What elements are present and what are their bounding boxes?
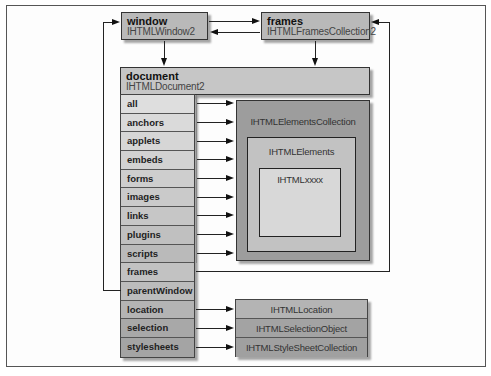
arrow-line xyxy=(197,178,227,179)
frames-to-document-line xyxy=(315,41,316,59)
arrow-down-icon xyxy=(161,58,167,66)
property-location: location xyxy=(121,301,194,320)
arrow-right-icon xyxy=(226,194,234,200)
arrow-right-icon xyxy=(226,325,234,331)
frames-box: frames IHTMLFramesCollection2 xyxy=(261,12,370,40)
frames-to-window-line xyxy=(218,32,260,33)
document-properties-list: all anchors applets embeds forms images … xyxy=(120,94,195,358)
arrow-right-icon xyxy=(226,175,234,181)
arrow-right-icon xyxy=(226,306,234,312)
frames-return-line-top xyxy=(378,22,390,23)
window-interface: IHTMLWindow2 xyxy=(127,27,195,37)
elements-collection-label: IHTMLElementsCollection xyxy=(237,116,369,127)
property-anchors: anchors xyxy=(121,114,194,133)
arrow-line xyxy=(197,215,227,216)
property-images: images xyxy=(121,188,194,207)
property-all: all xyxy=(121,95,194,114)
arrow-right-icon xyxy=(252,18,260,24)
property-applets: applets xyxy=(121,132,194,151)
property-links: links xyxy=(121,207,194,226)
window-to-document-line xyxy=(164,41,165,59)
property-selection: selection xyxy=(121,319,194,338)
bottom-interfaces-box: IHTMLLocation IHTMLSelectionObject IHTML… xyxy=(235,299,368,357)
frames-return-line-h xyxy=(196,271,390,272)
arrow-line xyxy=(196,309,227,310)
arrow-line xyxy=(197,141,227,142)
property-embeds: embeds xyxy=(121,151,194,170)
arrow-right-icon xyxy=(226,250,234,256)
arrow-right-icon xyxy=(112,19,120,25)
arrow-right-icon xyxy=(226,100,234,106)
arrow-left-icon xyxy=(371,19,379,25)
arrow-line xyxy=(197,122,227,123)
arrow-right-icon xyxy=(226,344,234,350)
arrow-right-icon xyxy=(226,156,234,162)
window-box: window IHTMLWindow2 xyxy=(121,12,208,40)
property-stylesheets: stylesheets xyxy=(121,338,194,357)
parentwindow-return-line-h xyxy=(103,290,121,291)
property-plugins: plugins xyxy=(121,226,194,245)
window-to-frames-line xyxy=(209,21,253,22)
arrow-left-icon xyxy=(210,29,218,35)
arrow-line xyxy=(197,234,227,235)
arrow-line xyxy=(196,328,227,329)
arrow-down-icon xyxy=(312,58,318,66)
stylesheet-interface: IHTMLStyleSheetCollection xyxy=(236,338,367,357)
element-instance-label: IHTMLxxxx xyxy=(260,174,340,185)
arrow-line xyxy=(197,103,227,104)
arrow-line xyxy=(197,159,227,160)
frames-interface: IHTMLFramesCollection2 xyxy=(267,27,376,37)
arrow-right-icon xyxy=(226,212,234,218)
parentwindow-return-line-v xyxy=(103,22,104,291)
property-scripts: scripts xyxy=(121,245,194,264)
arrow-line xyxy=(196,347,227,348)
property-parentwindow: parentWindow xyxy=(121,282,194,301)
location-interface: IHTMLLocation xyxy=(236,300,367,319)
elements-collection-box: IHTMLElementsCollection IHTMLElements IH… xyxy=(236,100,370,261)
document-body-edge xyxy=(196,95,197,263)
property-forms: forms xyxy=(121,170,194,189)
elements-box: IHTMLElements IHTMLxxxx xyxy=(247,137,356,252)
arrow-line xyxy=(197,197,227,198)
arrow-right-icon xyxy=(226,119,234,125)
selection-interface: IHTMLSelectionObject xyxy=(236,319,367,338)
elements-label: IHTMLElements xyxy=(248,146,355,157)
frames-return-line-v xyxy=(389,22,390,272)
arrow-right-icon xyxy=(226,138,234,144)
document-box: document IHTMLDocument2 xyxy=(120,67,370,95)
element-instance-box: IHTMLxxxx xyxy=(259,168,341,237)
arrow-line xyxy=(197,253,227,254)
property-frames: frames xyxy=(121,263,194,282)
arrow-right-icon xyxy=(226,231,234,237)
document-interface: IHTMLDocument2 xyxy=(126,82,204,92)
